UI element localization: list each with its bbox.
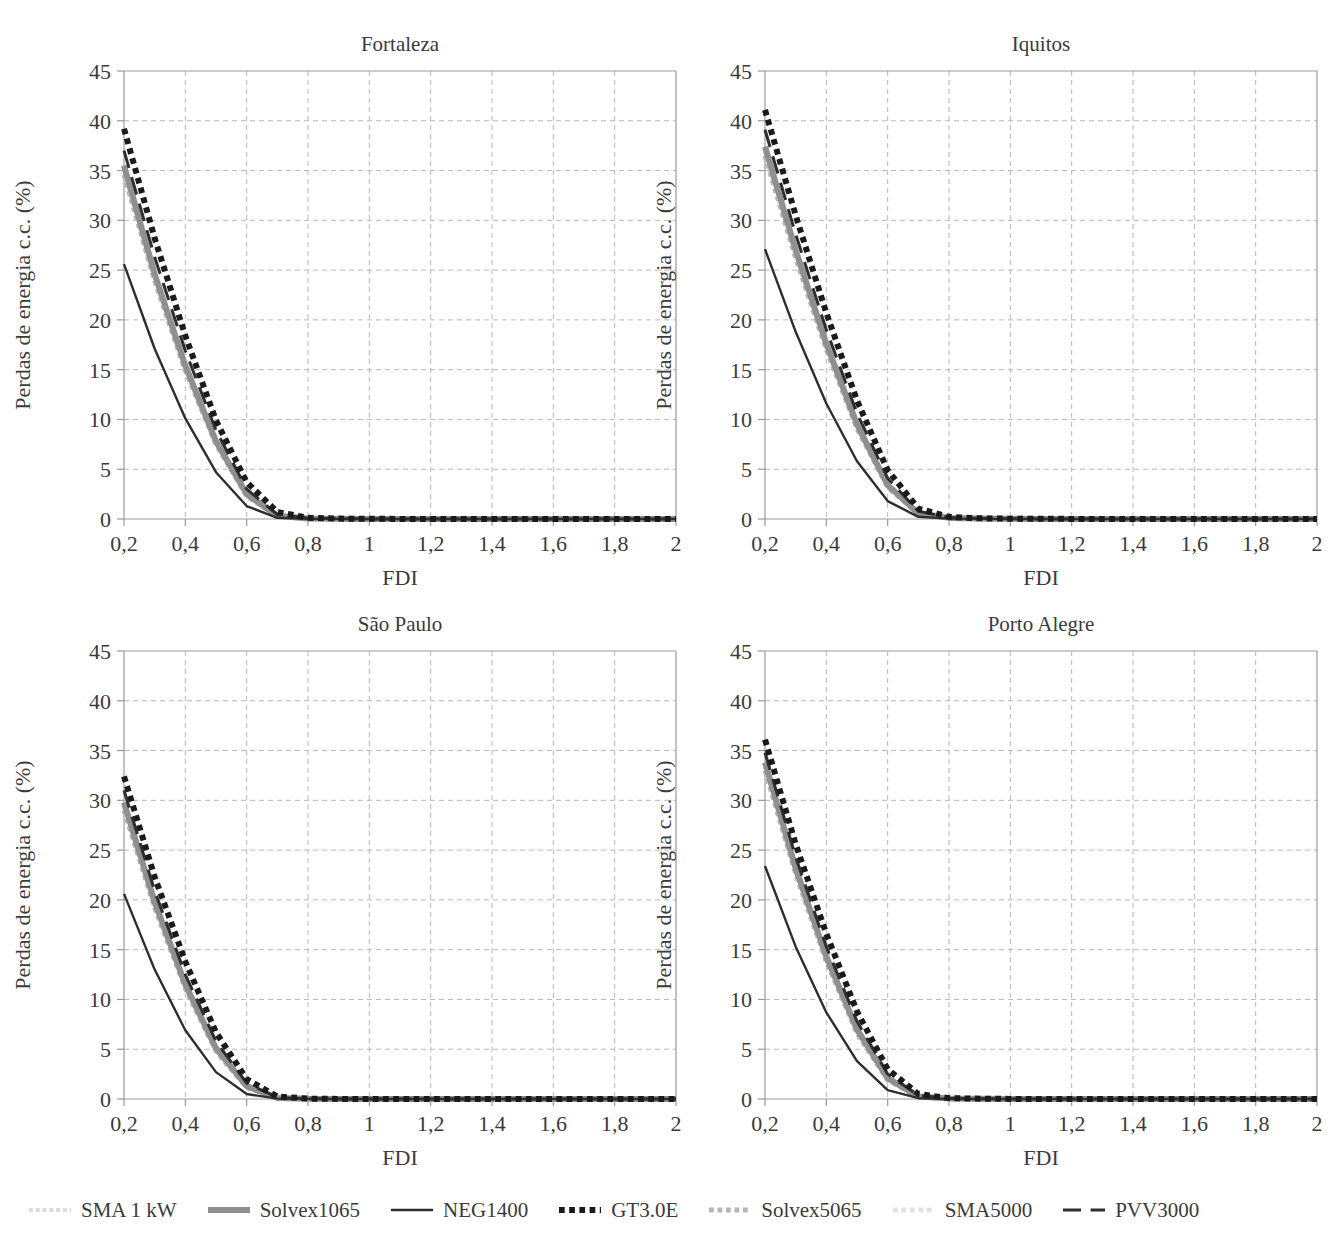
- x-tick-label: 0,8: [294, 531, 322, 556]
- series-line: [765, 149, 1317, 519]
- x-tick-label: 0,8: [294, 1111, 322, 1136]
- y-tick-label: 5: [741, 1037, 752, 1062]
- series-line: [124, 175, 676, 519]
- y-axis-title: Perdas de energia c.c. (%): [10, 760, 35, 989]
- plot-frame: [124, 71, 676, 519]
- series-line: [765, 130, 1317, 519]
- y-tick-label: 20: [89, 308, 111, 333]
- legend-item[interactable]: Solvex5065: [708, 1198, 861, 1223]
- series-line: [124, 894, 676, 1099]
- legend-swatch-icon: [892, 1203, 936, 1217]
- y-tick-label: 25: [89, 258, 111, 283]
- series-group: [765, 740, 1317, 1099]
- x-tick-label: 1,2: [1058, 1111, 1086, 1136]
- x-axis-title: FDI: [382, 565, 417, 590]
- chart-panel-iquitos: Iquitos0510152025303540450,20,40,60,811,…: [641, 20, 1331, 600]
- legend-item[interactable]: SMA 1 kW: [28, 1198, 177, 1223]
- y-tick-label: 30: [730, 788, 752, 813]
- x-tick-label: 1,4: [1119, 531, 1147, 556]
- legend-item[interactable]: SMA5000: [892, 1198, 1033, 1223]
- legend-item[interactable]: NEG1400: [390, 1198, 528, 1223]
- y-tick-label: 10: [89, 407, 111, 432]
- legend-swatch-icon: [207, 1203, 251, 1217]
- legend-item[interactable]: PVV3000: [1062, 1198, 1199, 1223]
- x-tick-label: 2: [1312, 1111, 1323, 1136]
- x-tick-label: 1,8: [1242, 1111, 1270, 1136]
- series-line: [124, 790, 676, 1099]
- y-tick-label: 35: [730, 159, 752, 184]
- grid-lines: [124, 71, 676, 519]
- legend-label: PVV3000: [1115, 1198, 1199, 1223]
- x-tick-label: 0,6: [233, 1111, 261, 1136]
- y-tick-label: 45: [730, 59, 752, 84]
- x-tick-label: 1,2: [1058, 531, 1086, 556]
- x-tick-label: 1,4: [1119, 1111, 1147, 1136]
- plot-frame: [765, 651, 1317, 1099]
- x-tick-label: 1,4: [478, 1111, 506, 1136]
- x-tick-label: 1,6: [1181, 531, 1209, 556]
- x-tick-label: 1,2: [417, 531, 445, 556]
- legend-swatch-icon: [708, 1203, 752, 1217]
- x-tick-label: 0,8: [935, 531, 963, 556]
- x-tick-label: 0,8: [935, 1111, 963, 1136]
- y-axis: 051015202530354045: [89, 59, 124, 532]
- figure-multi-panel-chart: Fortaleza0510152025303540450,20,40,60,81…: [0, 0, 1331, 1248]
- legend-item[interactable]: GT3.0E: [558, 1198, 678, 1223]
- y-tick-label: 15: [730, 938, 752, 963]
- x-axis: 0,20,40,60,811,21,41,61,82: [751, 1099, 1322, 1136]
- x-axis: 0,20,40,60,811,21,41,61,82: [110, 1099, 681, 1136]
- x-tick-label: 0,2: [110, 531, 138, 556]
- x-tick-label: 0,4: [172, 1111, 200, 1136]
- y-axis-title: Perdas de energia c.c. (%): [651, 180, 676, 409]
- y-tick-label: 35: [730, 739, 752, 764]
- x-tick-label: 0,4: [813, 531, 841, 556]
- legend-label: NEG1400: [443, 1198, 528, 1223]
- x-tick-label: 0,2: [110, 1111, 138, 1136]
- x-tick-label: 0,2: [751, 1111, 779, 1136]
- y-tick-label: 5: [741, 457, 752, 482]
- x-tick-label: 0,4: [813, 1111, 841, 1136]
- x-tick-label: 0,4: [172, 531, 200, 556]
- series-line: [765, 147, 1317, 519]
- chart-panel-porto-alegre: Porto Alegre0510152025303540450,20,40,60…: [641, 600, 1331, 1180]
- legend-label: SMA 1 kW: [81, 1198, 177, 1223]
- series-line: [124, 129, 676, 519]
- series-line: [765, 156, 1317, 519]
- x-tick-label: 1,8: [601, 531, 629, 556]
- y-tick-label: 10: [730, 987, 752, 1012]
- chart-title: Porto Alegre: [988, 612, 1095, 636]
- y-tick-label: 30: [89, 788, 111, 813]
- legend-label: Solvex5065: [761, 1198, 861, 1223]
- y-tick-label: 15: [89, 938, 111, 963]
- y-tick-label: 0: [741, 1087, 752, 1112]
- series-group: [124, 776, 676, 1099]
- x-tick-label: 0,6: [874, 531, 902, 556]
- legend-label: GT3.0E: [611, 1198, 678, 1223]
- series-line: [124, 151, 676, 519]
- x-tick-label: 1,6: [540, 1111, 568, 1136]
- y-axis: 051015202530354045: [730, 639, 765, 1112]
- x-tick-label: 0,6: [233, 531, 261, 556]
- series-line: [765, 110, 1317, 519]
- y-tick-label: 25: [730, 838, 752, 863]
- series-line: [124, 776, 676, 1099]
- y-tick-label: 45: [89, 59, 111, 84]
- legend-label: Solvex1065: [260, 1198, 360, 1223]
- series-line: [124, 804, 676, 1099]
- x-tick-label: 1,8: [1242, 531, 1270, 556]
- legend-swatch-icon: [1062, 1203, 1106, 1217]
- y-axis-title: Perdas de energia c.c. (%): [651, 760, 676, 989]
- x-tick-label: 1,6: [1181, 1111, 1209, 1136]
- y-tick-label: 35: [89, 159, 111, 184]
- y-tick-label: 5: [100, 1037, 111, 1062]
- y-tick-label: 15: [730, 358, 752, 383]
- y-axis-title: Perdas de energia c.c. (%): [10, 180, 35, 409]
- y-tick-label: 0: [100, 507, 111, 532]
- series-group: [765, 110, 1317, 519]
- series-line: [124, 810, 676, 1099]
- y-axis: 051015202530354045: [89, 639, 124, 1112]
- x-tick-label: 2: [1312, 531, 1323, 556]
- legend-swatch-icon: [390, 1203, 434, 1217]
- series-line: [124, 802, 676, 1099]
- legend-item[interactable]: Solvex1065: [207, 1198, 360, 1223]
